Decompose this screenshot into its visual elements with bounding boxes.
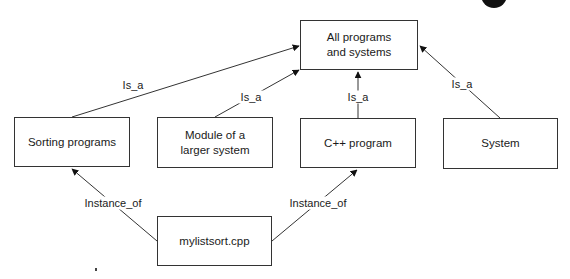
node-sorting-programs-label: Sorting programs	[28, 135, 116, 150]
node-all-programs-line2: and systems	[327, 45, 392, 60]
node-all-programs-line1: All programs	[327, 30, 392, 45]
node-module: Module of a larger system	[157, 117, 273, 168]
node-all-programs: All programs and systems	[300, 20, 418, 70]
node-system: System	[443, 118, 558, 169]
node-sorting-programs: Sorting programs	[14, 117, 130, 167]
node-mylistsort-label: mylistsort.cpp	[179, 234, 249, 249]
node-mylistsort: mylistsort.cpp	[157, 216, 272, 266]
edge-label-is-a-sorting: Is_a	[121, 79, 146, 92]
node-module-line2: larger system	[180, 143, 249, 158]
node-system-label: System	[481, 136, 519, 151]
edge-label-is-a-module: Is_a	[239, 91, 264, 104]
edge-label-instance-of-sorting: Instance_of	[83, 197, 144, 210]
edge-label-instance-of-cpp: Instance_of	[288, 197, 349, 210]
node-module-line1: Module of a	[185, 128, 245, 143]
node-cpp-program-label: C++ program	[324, 136, 392, 151]
node-cpp-program: C++ program	[300, 118, 416, 168]
edge-sorting-to-all	[72, 46, 299, 117]
edge-label-is-a-system: Is_a	[450, 78, 475, 91]
edge-label-is-a-cpp: Is_a	[346, 91, 371, 104]
